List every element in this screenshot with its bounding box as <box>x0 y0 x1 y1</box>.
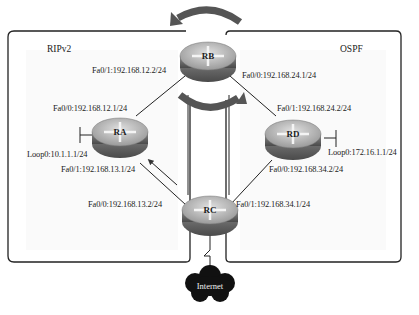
rb-fa01-label: Fa0/1:192.168.12.2/24 <box>92 66 166 76</box>
ra-loop0-label: Loop0:10.1.1.1/24 <box>27 150 87 160</box>
rd-loop0-label: Loop0:172.16.1.1/24 <box>328 148 397 158</box>
router-rc[interactable] <box>182 196 238 236</box>
ripv2-area-label: RIPv2 <box>47 44 71 54</box>
rd-fa00-label: Fa0/0:192.168.34.2/24 <box>269 165 343 175</box>
link-rc-internet <box>204 236 210 268</box>
internet-label: Internet <box>180 281 240 291</box>
router-ra-label: RA <box>105 127 135 137</box>
rc-fa01-label: Fa0/1:192.168.34.1/24 <box>236 200 310 210</box>
router-ra[interactable] <box>92 118 148 158</box>
router-rd-label: RD <box>278 129 308 139</box>
rc-fa00-label: Fa0/0:192.168.13.2/24 <box>88 200 162 210</box>
router-rc-label: RC <box>195 205 225 215</box>
router-rd[interactable] <box>265 120 321 160</box>
router-rb-label: RB <box>193 51 223 61</box>
redistribution-arrow-top <box>178 10 240 22</box>
router-rb[interactable] <box>180 42 236 82</box>
rd-fa01-label: Fa0/1:192.168.24.2/24 <box>277 104 351 114</box>
rb-fa00-label: Fa0/0:192.168.24.1/24 <box>242 71 316 81</box>
ra-fa00-label: Fa0/0:192.168.12.1/24 <box>53 104 127 114</box>
ra-fa01-label: Fa0/1:192.168.13.1/24 <box>61 165 135 175</box>
ospf-area-label: OSPF <box>340 44 363 54</box>
